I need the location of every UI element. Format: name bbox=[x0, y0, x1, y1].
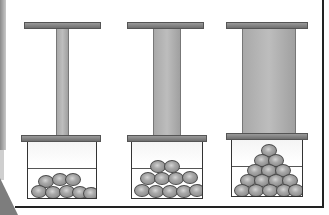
container bbox=[27, 142, 97, 199]
left-edge-shadow-lower bbox=[0, 150, 4, 180]
sphere bbox=[288, 184, 303, 197]
left-edge-shadow bbox=[0, 0, 6, 150]
sphere bbox=[182, 171, 198, 184]
piston-plate bbox=[127, 135, 207, 142]
sphere bbox=[164, 160, 180, 173]
top-plate bbox=[226, 22, 308, 29]
piston-rod-thin bbox=[56, 29, 69, 135]
sphere bbox=[189, 184, 203, 197]
container bbox=[131, 142, 203, 199]
piston-plate bbox=[21, 135, 101, 142]
top-plate bbox=[127, 22, 204, 29]
level-line bbox=[28, 168, 96, 169]
top-plate bbox=[24, 22, 101, 29]
piston-rod-wide bbox=[242, 29, 296, 135]
piston-plate bbox=[226, 133, 308, 140]
sphere bbox=[83, 187, 97, 199]
piston-rod-medium bbox=[153, 29, 181, 135]
container bbox=[231, 140, 303, 197]
